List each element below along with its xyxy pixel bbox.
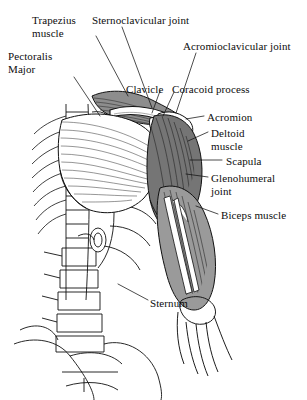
label-acromion: Acromion (207, 111, 252, 124)
label-coracoid-process: Coracoid process (172, 83, 250, 96)
label-acromioclavicular-joint: Acromioclavicular joint (183, 40, 291, 53)
label-scapula: Scapula (226, 155, 262, 168)
label-sternoclavicular-joint: Sternoclavicular joint (92, 14, 189, 27)
label-trapezius-muscle: Trapezius muscle (32, 14, 76, 39)
label-deltoid-muscle: Deltoid muscle (211, 127, 245, 152)
label-glenohumeral-joint: Glenohumeral joint (211, 172, 275, 197)
label-clavicle: Clavicle (126, 83, 163, 96)
label-pectoralis-major: Pectoralis Major (8, 50, 52, 75)
label-biceps-muscle: Biceps muscle (221, 209, 286, 222)
label-sternum: Sternum (150, 297, 188, 310)
anatomy-figure: Trapezius muscle Sternoclavicular joint … (0, 0, 307, 400)
